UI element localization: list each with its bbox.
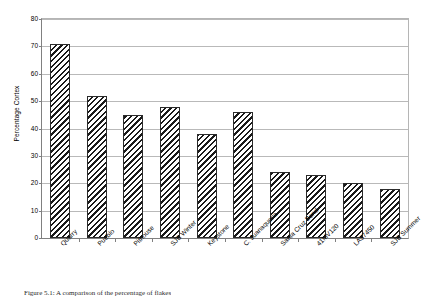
bar-slot (225, 19, 262, 238)
plot-frame (41, 18, 409, 239)
figure-caption: Figure 5.1: A comparison of the percenta… (24, 289, 171, 298)
y-axis-tick-labels: 80706050403020100 (22, 14, 38, 238)
bar-slot (371, 19, 408, 238)
bar-slot (79, 19, 116, 238)
x-label-slot: Santa Cruz Bend (261, 240, 298, 298)
bar (197, 134, 217, 238)
y-tick-label: 10 (31, 206, 38, 213)
y-tick-label: 0 (34, 234, 38, 241)
chart-plot-area: Percentage Cortex 80706050403020100 Quar… (0, 0, 425, 250)
x-label-slot: SJB Summer (370, 240, 407, 298)
y-tick-label: 60 (31, 69, 38, 76)
figure-bar-chart: Percentage Cortex 80706050403020100 Quar… (0, 0, 425, 298)
bar (233, 112, 253, 238)
y-tick-label: 20 (31, 179, 38, 186)
bar-slot (115, 19, 152, 238)
y-tick-label: 70 (31, 42, 38, 49)
y-tick-mark (39, 238, 42, 239)
bar-slot (298, 19, 335, 238)
bar-slot (42, 19, 79, 238)
bar-slot (335, 19, 372, 238)
bar-slot (188, 19, 225, 238)
y-tick-label: 50 (31, 97, 38, 104)
y-tick-label: 30 (31, 151, 38, 158)
bar-slot (262, 19, 299, 238)
bar (306, 175, 326, 238)
bar (160, 107, 180, 238)
x-label-slot: Keystone (187, 240, 224, 298)
bar (270, 172, 290, 238)
x-label-slot: 41MV120 (297, 240, 334, 298)
bar (50, 44, 70, 238)
x-label-slot: C. Juanaquena (224, 240, 261, 298)
bar (380, 189, 400, 238)
y-tick-label: 80 (31, 15, 38, 22)
bar (123, 115, 143, 238)
bar-series (42, 19, 408, 238)
y-tick-label: 40 (31, 124, 38, 131)
x-label-slot: LA37450 (334, 240, 371, 298)
y-axis-title: Percentage Cortex (13, 54, 20, 174)
bar-slot (152, 19, 189, 238)
bar (87, 96, 107, 238)
bar (343, 183, 363, 238)
